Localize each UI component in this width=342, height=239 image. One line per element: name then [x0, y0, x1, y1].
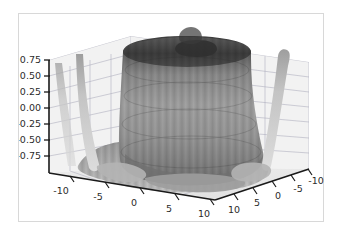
surface-peak-bump-top [179, 27, 202, 44]
x-tick-label: 0 [131, 197, 137, 208]
x-tick-label: 5 [166, 203, 172, 214]
y-tick-label: -10 [308, 175, 324, 186]
y-tick-label: 10 [228, 204, 240, 215]
x-tick-label: 10 [198, 208, 210, 219]
y-tick-label: 0 [275, 190, 281, 201]
z-tick-label: 0.75 [20, 54, 41, 65]
z-tick-label: -0.75 [19, 150, 41, 161]
z-tick-label: -0.25 [19, 118, 41, 129]
z-axis-tick-labels: 0.75 0.50 0.25 0.00 -0.25 -0.50 -0.75 [19, 54, 41, 161]
y-tick-label: 5 [254, 197, 260, 208]
matplotlib-figure: 0.75 0.50 0.25 0.00 -0.25 -0.50 -0.75 -1… [18, 13, 324, 222]
x-tick-label: -10 [53, 185, 69, 196]
screenshot-root: 0.75 0.50 0.25 0.00 -0.25 -0.50 -0.75 -1… [0, 0, 342, 239]
z-tick-label: 0.25 [20, 86, 41, 97]
z-tick-label: 0.50 [20, 70, 41, 81]
x-tick-label: -5 [93, 191, 102, 202]
surface-plot-3d: 0.75 0.50 0.25 0.00 -0.25 -0.50 -0.75 -1… [19, 14, 325, 223]
z-tick-label: -0.50 [19, 134, 41, 145]
z-tick-label: 0.00 [20, 102, 41, 113]
y-tick-label: -5 [293, 183, 302, 194]
